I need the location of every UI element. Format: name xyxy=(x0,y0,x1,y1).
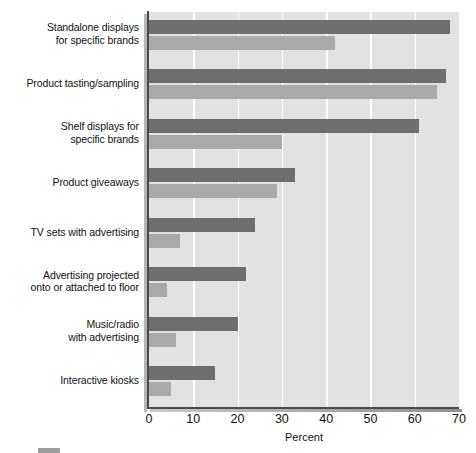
category-label: Music/radio with advertising xyxy=(0,318,139,343)
x-tick-label: 50 xyxy=(350,412,390,426)
x-axis-title: Percent xyxy=(149,431,459,443)
category-axis-labels: Standalone displays for specific brandsP… xyxy=(0,12,144,408)
x-axis-tick-labels: 010203040506070 xyxy=(0,412,476,430)
bar xyxy=(149,333,176,347)
bar xyxy=(149,184,277,198)
x-tick-label: 0 xyxy=(129,412,169,426)
bar xyxy=(149,382,171,396)
category-label: Standalone displays for specific brands xyxy=(0,21,139,46)
x-tick-label: 30 xyxy=(262,412,302,426)
category-label: Shelf displays for specific brands xyxy=(0,120,139,145)
x-tick-label: 60 xyxy=(395,412,435,426)
x-tick-label: 10 xyxy=(173,412,213,426)
y-axis-line xyxy=(147,11,149,409)
bar xyxy=(149,283,167,297)
bar xyxy=(149,168,295,182)
bar xyxy=(149,317,238,331)
legend-swatch xyxy=(38,448,60,453)
x-tick-label: 70 xyxy=(439,412,476,426)
x-axis-line xyxy=(147,407,459,409)
bar xyxy=(149,234,180,248)
x-tick-label: 40 xyxy=(306,412,346,426)
category-label: Product tasting/sampling xyxy=(0,77,139,90)
bar xyxy=(149,267,246,281)
category-label: TV sets with advertising xyxy=(0,226,139,239)
bar xyxy=(149,135,282,149)
category-label: Interactive kiosks xyxy=(0,374,139,387)
legend xyxy=(38,448,238,453)
bar-chart: Standalone displays for specific brandsP… xyxy=(0,0,476,453)
bar xyxy=(149,85,437,99)
bar xyxy=(149,69,446,83)
bar xyxy=(149,20,450,34)
plot-area xyxy=(149,12,459,408)
category-label: Product giveaways xyxy=(0,176,139,189)
bar xyxy=(149,218,255,232)
bar xyxy=(149,119,419,133)
x-tick-label: 20 xyxy=(218,412,258,426)
bar xyxy=(149,36,335,50)
category-label: Advertising projected onto or attached t… xyxy=(0,269,139,294)
bar xyxy=(149,366,215,380)
